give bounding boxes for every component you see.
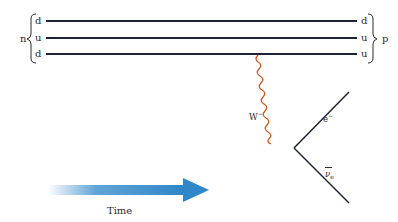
proton-quark-3: u	[361, 49, 367, 59]
time-arrow-head	[183, 178, 209, 202]
antineutrino-label: νe	[325, 170, 334, 180]
antiparticle-bar	[325, 167, 332, 168]
w-boson-wavy-line	[256, 55, 271, 144]
antineutrino-symbol: ν	[325, 169, 330, 179]
feynman-diagram-canvas	[0, 0, 398, 222]
antineutrino-subscript: e	[330, 173, 334, 180]
electron-label: e−	[323, 113, 333, 124]
neutron-quark-1: d	[35, 16, 41, 26]
electron-line	[294, 92, 349, 148]
w-boson-label: W−	[249, 111, 263, 122]
electron-charge: −	[328, 112, 333, 119]
neutron-quark-3: d	[35, 49, 41, 59]
w-boson-charge: −	[258, 110, 263, 117]
neutron-quark-2: u	[35, 33, 41, 43]
proton-quark-1: d	[361, 16, 367, 26]
antineutrino-line	[294, 148, 349, 203]
proton-label: p	[382, 34, 388, 44]
neutron-label: n	[20, 34, 26, 44]
time-arrow-shaft	[48, 185, 183, 195]
proton-brace	[368, 14, 377, 63]
w-boson-symbol: W	[249, 112, 258, 122]
proton-quark-2: u	[361, 33, 367, 43]
time-label: Time	[107, 206, 132, 216]
